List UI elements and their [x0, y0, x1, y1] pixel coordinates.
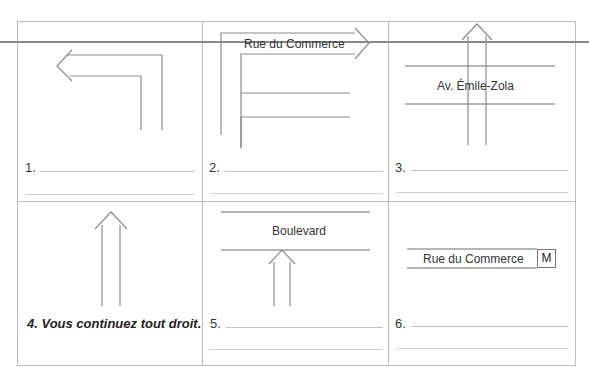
answer-line-6b[interactable]	[396, 348, 568, 349]
turn-left-arrow-icon	[57, 50, 162, 130]
answer-line-2b[interactable]	[210, 193, 383, 194]
item-number-1: 1.	[25, 160, 36, 175]
street-label-boulevard: Boulevard	[272, 224, 326, 238]
item-number-3: 3.	[395, 160, 406, 175]
street-label-av-emile-zola: Av. Émile-Zola	[437, 79, 514, 93]
answer-line-3a[interactable]	[411, 170, 568, 171]
item-number-6: 6.	[395, 316, 406, 331]
metro-sign-icon: M	[537, 249, 556, 268]
straight-arrow-icon	[95, 212, 127, 306]
answer-line-5b[interactable]	[210, 349, 383, 350]
item-number-2: 2.	[209, 160, 220, 175]
answer-line-5a[interactable]	[226, 327, 383, 328]
answer-line-3b[interactable]	[396, 192, 568, 193]
answer-line-6a[interactable]	[411, 326, 568, 327]
answer-line-1a[interactable]	[40, 171, 195, 172]
item-number-5: 5.	[210, 316, 221, 331]
answer-line-1b[interactable]	[25, 194, 195, 195]
street-label-rue-du-commerce-metro: Rue du Commerce	[423, 252, 524, 266]
answer-line-2a[interactable]	[225, 171, 383, 172]
street-label-rue-du-commerce: Rue du Commerce	[244, 37, 345, 51]
example-answer-4: 4. Vous continuez tout droit.	[27, 316, 201, 331]
